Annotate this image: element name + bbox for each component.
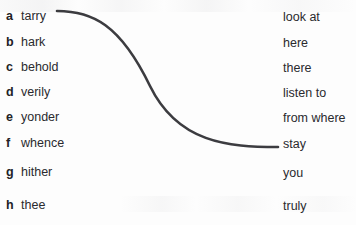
term-letter: h <box>6 196 14 214</box>
definition-text: here <box>283 36 308 50</box>
definition-text: listen to <box>283 86 326 100</box>
definition-row[interactable]: here <box>283 33 308 51</box>
term-letter: d <box>6 83 14 101</box>
term-word: hark <box>21 33 45 51</box>
definition-text: look at <box>283 10 320 24</box>
term-word: whence <box>21 134 64 152</box>
definition-text: from where <box>283 111 346 125</box>
connection-curve-tarry-stay <box>57 11 278 147</box>
definition-row[interactable]: truly <box>283 196 307 214</box>
term-letter: b <box>6 33 14 51</box>
term-word: yonder <box>21 108 59 126</box>
definition-row[interactable]: look at <box>283 7 320 25</box>
term-letter: g <box>6 163 14 181</box>
term-word: behold <box>21 58 59 76</box>
term-word: hither <box>21 163 52 181</box>
term-letter: f <box>6 134 10 152</box>
definition-row[interactable]: stay <box>283 134 306 152</box>
scan-noise-bottom <box>120 196 356 212</box>
term-letter: e <box>6 108 13 126</box>
term-word: tarry <box>21 7 46 25</box>
definition-row[interactable]: listen to <box>283 83 326 101</box>
term-letter: a <box>6 7 13 25</box>
definition-text: truly <box>283 199 307 213</box>
definition-row[interactable]: there <box>283 58 312 76</box>
term-word: verily <box>21 83 50 101</box>
definition-row[interactable]: from where <box>283 108 346 126</box>
definition-text: there <box>283 61 312 75</box>
matching-exercise-page: a tarry b hark c behold d verily e yonde… <box>0 0 356 225</box>
definition-text: you <box>283 166 303 180</box>
definition-row[interactable]: you <box>283 163 303 181</box>
definition-text: stay <box>283 137 306 151</box>
term-letter: c <box>6 58 13 76</box>
term-word: thee <box>21 196 45 214</box>
